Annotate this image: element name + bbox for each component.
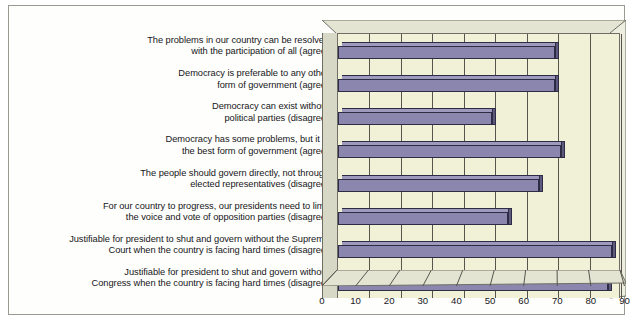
bar-end-cap — [561, 141, 565, 158]
x-tick-label: 90 — [613, 295, 633, 306]
bar-end-cap — [492, 108, 496, 125]
bar-row — [338, 141, 621, 158]
chart-plot-wrapper: 0102030405060708090 — [322, 20, 626, 316]
gridline — [621, 34, 622, 298]
bar-front-face — [338, 245, 612, 258]
bar-front-face — [338, 79, 555, 92]
bar-end-cap — [539, 175, 543, 192]
bar-end-cap — [612, 241, 616, 258]
category-label-line1: Democracy has some problems, but it is — [19, 134, 329, 145]
gridline — [558, 34, 559, 298]
bar-row — [338, 208, 621, 225]
plot-top-face-3d — [322, 20, 626, 34]
category-label-line2: the best form of government (agree) — [19, 146, 329, 157]
x-tick-label: 50 — [479, 295, 501, 306]
category-label: Democracy can exist withoutpolitical par… — [19, 101, 329, 124]
gridline — [432, 34, 433, 298]
x-tick-label: 10 — [345, 295, 367, 306]
category-label-line1: Justifiable for president to shut and go… — [19, 267, 329, 278]
gridline — [495, 34, 496, 298]
bar-row — [338, 42, 621, 59]
category-label: Democracy has some problems, but it isth… — [19, 134, 329, 157]
gridline — [527, 34, 528, 298]
gridline — [369, 34, 370, 298]
bar-front-face — [338, 145, 561, 158]
category-label-line2: elected representatives (disagree) — [19, 179, 329, 190]
bar-row — [338, 241, 621, 258]
x-tick-label: 80 — [580, 295, 602, 306]
x-tick-label: 20 — [378, 295, 400, 306]
x-axis: 0102030405060708090 — [322, 286, 626, 316]
category-label-line2: Congress when the country is facing hard… — [19, 278, 329, 289]
category-label: The people should govern directly, not t… — [19, 168, 329, 191]
category-label-line2: Court when the country is facing hard ti… — [19, 245, 329, 256]
bar-front-face — [338, 179, 539, 192]
bar-row — [338, 175, 621, 192]
category-label: Justifiable for president to shut and go… — [19, 267, 329, 290]
category-label-line2: the voice and vote of opposition parties… — [19, 212, 329, 223]
bar-end-cap — [555, 75, 559, 92]
plot-floor-3d — [322, 270, 626, 286]
plot-left-sidewall-3d — [322, 33, 337, 298]
chart-figure-frame: The problems in our country can be resol… — [8, 5, 625, 315]
gridline — [590, 34, 591, 298]
category-label-line1: Democracy is preferable to any other — [19, 68, 329, 79]
category-label-line2: political parties (disagree) — [19, 113, 329, 124]
bar-end-cap — [508, 208, 512, 225]
bar-row — [338, 108, 621, 125]
category-label: Democracy is preferable to any otherform… — [19, 68, 329, 91]
x-tick-label: 60 — [513, 295, 535, 306]
category-axis-labels: The problems in our country can be resol… — [19, 18, 329, 303]
category-label-line1: Democracy can exist without — [19, 101, 329, 112]
bar-end-cap — [555, 42, 559, 59]
category-label-line1: For our country to progress, our preside… — [19, 201, 329, 212]
x-tick-label: 70 — [546, 295, 568, 306]
gridline — [464, 34, 465, 298]
bar-row — [338, 75, 621, 92]
x-tick-label: 0 — [311, 295, 333, 306]
x-tick-label: 30 — [412, 295, 434, 306]
category-label-line2: form of government (agree) — [19, 80, 329, 91]
bar-front-face — [338, 112, 492, 125]
category-label: For our country to progress, our preside… — [19, 201, 329, 224]
category-label-line1: The people should govern directly, not t… — [19, 168, 329, 179]
plot-area — [337, 33, 620, 298]
category-label-line2: with the participation of all (agree) — [19, 46, 329, 57]
category-label-line1: Justifiable for president to shut and go… — [19, 234, 329, 245]
category-label-line1: The problems in our country can be resol… — [19, 35, 329, 46]
category-label: The problems in our country can be resol… — [19, 35, 329, 58]
bar-front-face — [338, 46, 555, 59]
category-label: Justifiable for president to shut and go… — [19, 234, 329, 257]
bar-front-face — [338, 212, 508, 225]
x-tick-label: 40 — [445, 295, 467, 306]
gridline — [401, 34, 402, 298]
